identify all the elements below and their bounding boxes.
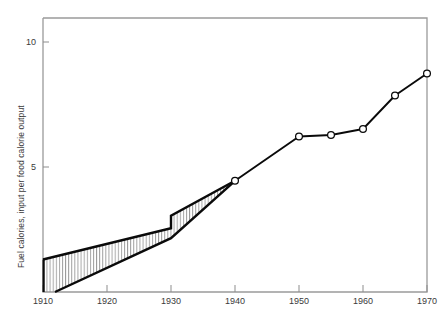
data-point-markers — [232, 70, 431, 184]
line-chart-plot — [0, 0, 446, 319]
x-tick-label-1940: 1940 — [225, 296, 245, 306]
x-tick-label-1950: 1950 — [289, 296, 309, 306]
y-tick-label-10: 10 — [16, 37, 36, 47]
x-tick-label-1970: 1970 — [417, 296, 437, 306]
chart-container: Fuel calories, input per food calorie ou… — [0, 0, 446, 319]
data-line — [235, 74, 427, 181]
x-tick-label-1920: 1920 — [97, 296, 117, 306]
x-tick-label-1910: 1910 — [33, 296, 53, 306]
x-tick-label-1930: 1930 — [161, 296, 181, 306]
y-tick-label-5: 5 — [16, 162, 36, 172]
x-tick-label-1960: 1960 — [353, 296, 373, 306]
x-axis-ticks — [43, 285, 427, 292]
y-axis-title: Fuel calories, input per food calorie ou… — [16, 105, 26, 268]
y-axis-ticks — [43, 42, 49, 167]
